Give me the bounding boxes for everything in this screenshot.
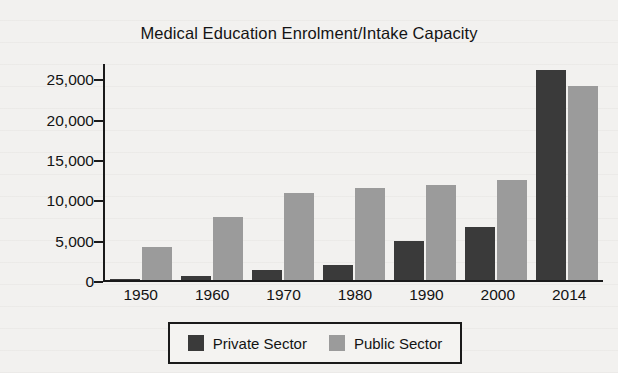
legend-label: Public Sector <box>354 335 442 352</box>
chart-title: Medical Education Enrolment/Intake Capac… <box>0 24 618 43</box>
bar-group <box>176 64 247 280</box>
bar-public-sector-1960 <box>213 217 243 280</box>
y-tick-label: 5,000 <box>55 233 94 251</box>
y-axis-tick-labels: 05,00010,00015,00020,00025,000 <box>0 64 98 282</box>
y-tick-label: 25,000 <box>47 71 94 89</box>
bar-public-sector-2014 <box>568 86 598 280</box>
bar-public-sector-2000 <box>497 180 527 280</box>
x-tick-label: 2014 <box>534 286 605 304</box>
y-tick-mark <box>94 241 103 243</box>
x-axis-line <box>103 280 603 282</box>
legend-item: Private Sector <box>188 335 307 352</box>
x-axis-tick-labels: 1950196019701980199020002014 <box>105 286 605 304</box>
legend-label: Private Sector <box>213 335 307 352</box>
bar-public-sector-1950 <box>142 247 172 280</box>
bar-group <box>318 64 389 280</box>
bar-group <box>390 64 461 280</box>
bar-group <box>532 64 603 280</box>
bar-group <box>247 64 318 280</box>
y-tick-mark <box>94 200 103 202</box>
x-tick-label: 2000 <box>462 286 533 304</box>
bar-group <box>461 64 532 280</box>
y-tick-mark <box>94 160 103 162</box>
bar-private-sector-1990 <box>394 241 424 280</box>
bar-groups <box>105 64 603 280</box>
bar-private-sector-2000 <box>465 227 495 280</box>
x-tick-label: 1970 <box>248 286 319 304</box>
x-tick-label: 1990 <box>391 286 462 304</box>
bar-private-sector-1950 <box>110 279 140 280</box>
y-tick-label: 0 <box>85 273 94 291</box>
x-tick-label: 1960 <box>176 286 247 304</box>
x-tick-label: 1980 <box>319 286 390 304</box>
bar-private-sector-1970 <box>252 270 282 280</box>
y-tick-label: 10,000 <box>47 192 94 210</box>
bar-chart-figure: Medical Education Enrolment/Intake Capac… <box>0 0 618 373</box>
y-tick-mark <box>94 281 103 283</box>
bar-public-sector-1980 <box>355 188 385 280</box>
bar-public-sector-1970 <box>284 193 314 280</box>
bar-private-sector-1980 <box>323 265 353 280</box>
plot-area <box>103 64 603 282</box>
y-tick-mark <box>94 120 103 122</box>
y-tick-label: 20,000 <box>47 112 94 130</box>
bar-public-sector-1990 <box>426 185 456 280</box>
y-tick-mark <box>94 79 103 81</box>
y-tick-label: 15,000 <box>47 152 94 170</box>
bar-group <box>105 64 176 280</box>
chart-legend: Private SectorPublic Sector <box>168 322 462 364</box>
legend-item: Public Sector <box>329 335 442 352</box>
legend-swatch-private-sector <box>188 335 204 351</box>
x-tick-label: 1950 <box>105 286 176 304</box>
legend-swatch-public-sector <box>329 335 345 351</box>
bar-private-sector-2014 <box>536 70 566 280</box>
bar-private-sector-1960 <box>181 276 211 280</box>
